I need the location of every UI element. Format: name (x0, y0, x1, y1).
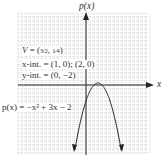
y-intercept-annotation: y-int. = (0, −2) (22, 71, 75, 80)
y-axis-label: p(x) (79, 2, 94, 12)
grid (18, 13, 150, 153)
left-arrow-icon (72, 144, 77, 152)
axes (18, 12, 154, 155)
vertex-annotation: V = (3⁄2, 1⁄4) (22, 46, 63, 55)
x-intercept-annotation: x-int. = (1, 0); (2, 0) (22, 60, 95, 69)
right-arrow-icon (119, 144, 124, 152)
function-label: p(x) = −x² + 3x − 2 (2, 103, 72, 112)
x-axis-label: x (157, 80, 161, 90)
